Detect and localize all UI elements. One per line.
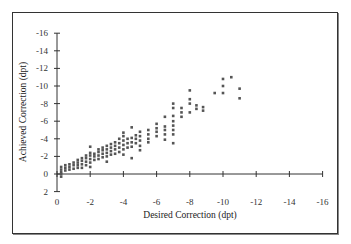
data-point <box>101 156 104 159</box>
data-point <box>195 108 198 111</box>
data-point <box>106 155 109 158</box>
data-point <box>238 87 241 90</box>
data-point <box>139 145 142 148</box>
data-point <box>72 164 75 167</box>
x-tick-label: -14 <box>283 197 295 207</box>
data-point <box>97 148 100 151</box>
data-point <box>97 151 100 154</box>
data-point <box>60 168 63 171</box>
data-points <box>60 76 241 178</box>
data-point <box>122 153 125 156</box>
data-point <box>89 166 92 169</box>
data-point <box>164 116 167 119</box>
data-point <box>135 134 138 137</box>
data-point <box>106 148 109 151</box>
y-tick-label: -6 <box>41 116 49 126</box>
data-point <box>147 129 150 132</box>
data-point <box>172 129 175 132</box>
data-point <box>76 164 79 167</box>
data-point <box>106 160 109 163</box>
data-point <box>164 133 167 136</box>
data-point <box>172 102 175 105</box>
data-point <box>64 164 67 167</box>
data-point <box>139 130 142 133</box>
x-tick-label: 0 <box>55 197 60 207</box>
scatter-chart: -16-14-12-10-8-6-4-2020-2-4-6-8-10-12-14… <box>0 0 351 244</box>
data-point <box>118 151 121 154</box>
data-point <box>139 149 142 152</box>
y-tick-label: -4 <box>41 134 49 144</box>
data-point <box>155 135 158 138</box>
data-point <box>114 152 117 155</box>
data-point <box>81 157 84 160</box>
data-point <box>122 135 125 138</box>
x-tick-label: -8 <box>186 197 194 207</box>
data-point <box>97 158 100 161</box>
data-point <box>81 167 84 170</box>
data-point <box>155 127 158 130</box>
data-point <box>85 157 88 160</box>
x-axis-title: Desired Correction (dpt) <box>143 210 236 221</box>
data-point <box>213 92 216 95</box>
data-point <box>189 102 192 105</box>
data-point <box>189 111 192 114</box>
data-point <box>118 138 121 141</box>
data-point <box>130 145 133 148</box>
data-point <box>76 161 79 164</box>
data-point <box>101 152 104 155</box>
data-point <box>118 142 121 145</box>
data-point <box>189 98 192 101</box>
data-point <box>85 160 88 163</box>
data-point <box>172 107 175 110</box>
data-point <box>114 148 117 151</box>
data-point <box>189 89 192 92</box>
data-point <box>172 115 175 118</box>
data-point <box>130 157 133 160</box>
data-point <box>139 139 142 142</box>
data-point <box>60 171 63 174</box>
x-tick-label: -12 <box>250 197 262 207</box>
x-tick-label: -2 <box>86 197 94 207</box>
y-tick-label: 2 <box>44 187 49 197</box>
data-point <box>101 149 104 152</box>
data-point <box>72 161 75 164</box>
data-point <box>126 142 129 145</box>
data-point <box>60 175 63 178</box>
data-point <box>238 97 241 100</box>
data-point <box>202 106 205 109</box>
data-point <box>110 146 113 149</box>
data-point <box>64 167 67 170</box>
data-point <box>130 137 133 140</box>
data-point <box>222 78 225 81</box>
data-point <box>93 159 96 162</box>
data-point <box>147 133 150 136</box>
data-point <box>118 146 121 149</box>
data-point <box>106 152 109 155</box>
data-point <box>60 166 63 169</box>
data-point <box>110 153 113 156</box>
data-point <box>89 154 92 157</box>
data-point <box>85 164 88 167</box>
y-tick-label: -2 <box>41 151 49 161</box>
data-point <box>180 107 183 110</box>
data-point <box>93 155 96 158</box>
data-point <box>195 104 198 107</box>
data-point <box>202 109 205 112</box>
data-point <box>68 166 71 169</box>
data-point <box>122 148 125 151</box>
data-point <box>172 142 175 145</box>
data-point <box>147 138 150 141</box>
data-point <box>155 130 158 133</box>
y-tick-label: -8 <box>41 99 49 109</box>
y-axis-title: Achieved Correction (dpt) <box>18 62 29 162</box>
data-point <box>130 126 133 129</box>
data-point <box>97 154 100 157</box>
data-point <box>135 138 138 141</box>
data-point <box>139 135 142 138</box>
data-point <box>230 76 233 79</box>
data-point <box>180 116 183 119</box>
data-point <box>93 152 96 155</box>
y-tick-label: -16 <box>36 28 48 38</box>
data-point <box>164 125 167 128</box>
data-point <box>172 120 175 123</box>
